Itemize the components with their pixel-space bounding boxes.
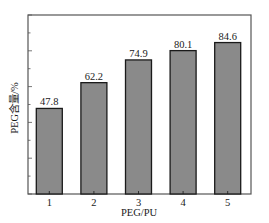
x-tick-label: 4 (180, 197, 186, 208)
bar-group: 84.6 (215, 31, 241, 194)
bar-group: 47.8 (36, 96, 62, 194)
bar (126, 60, 152, 194)
bar-group: 80.1 (170, 39, 196, 194)
x-axis-label: PEG/PU (121, 207, 158, 218)
y-axis-label: PEG含量/% (8, 82, 20, 134)
x-tick-label: 2 (91, 197, 96, 208)
bar (81, 83, 107, 194)
bar-group: 62.2 (81, 71, 107, 194)
x-tick-label: 1 (47, 197, 52, 208)
bar-group: 74.9 (126, 48, 152, 194)
bar (170, 51, 196, 194)
bar-value-label: 47.8 (40, 96, 58, 107)
bar-value-label: 74.9 (129, 48, 147, 59)
x-tick-label: 5 (225, 197, 230, 208)
bar (36, 108, 62, 194)
bar-value-label: 84.6 (219, 31, 237, 42)
bar-chart: 47.862.274.980.184.6 12345 PEG/PU PEG含量/… (0, 0, 269, 223)
bar-value-label: 80.1 (174, 39, 192, 50)
bar-value-label: 62.2 (85, 71, 103, 82)
bar (215, 43, 241, 194)
